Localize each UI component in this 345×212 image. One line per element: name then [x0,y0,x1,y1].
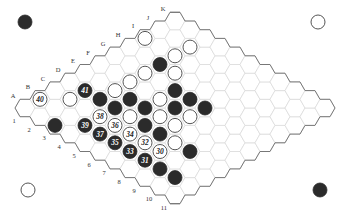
white-stone-F3 [123,75,137,89]
corner-marker-top-left [18,15,32,29]
stone-disc [168,49,182,63]
row-label: 4 [57,143,61,150]
white-stone-C8: 30 [153,145,167,159]
white-stone-H4 [168,66,182,80]
stone-disc [168,136,182,150]
black-stone-B10 [168,171,182,185]
white-stone-J3 [183,40,197,54]
white-stone-C7: 32 [138,136,152,150]
stone-disc [153,58,167,72]
row-label: 11 [161,204,167,211]
black-stone-B7: 33 [123,145,137,159]
white-stone-E6 [153,110,167,124]
stone-disc [138,118,152,132]
white-stone-C4: 38 [93,110,107,124]
column-label: G [101,40,106,47]
white-stone-F5 [153,92,167,106]
row-label: 8 [117,178,120,185]
black-stone-B6: 35 [108,136,122,150]
row-label: 1 [12,117,15,124]
move-number: 38 [95,112,104,121]
column-label: J [147,14,150,21]
column-label: I [132,22,134,29]
stone-disc [63,92,77,106]
column-label: D [56,66,61,73]
move-number: 41 [80,86,89,95]
hex-board: ABCDEFGHIJK1234567891011 413836343230403… [0,0,345,212]
column-label: A [11,92,16,99]
move-number: 35 [110,138,119,147]
column-label: E [71,57,75,64]
white-stone-F7 [183,110,197,124]
black-stone-D4 [108,101,122,115]
black-stone-G5 [168,84,182,98]
white-stone-E3 [108,84,122,98]
stone-disc [183,40,197,54]
column-label: B [26,83,31,90]
white-stone-I3 [168,49,182,63]
move-number: 32 [140,138,149,147]
stone-disc [183,145,197,159]
white-stone-C5: 36 [108,118,122,132]
stone-disc [138,101,152,115]
column-label: F [86,49,90,56]
black-stone-B8: 31 [138,153,152,167]
row-label: 5 [72,152,75,159]
white-stone-D5 [123,110,137,124]
black-stone-G6 [183,92,197,106]
row-label: 9 [132,187,135,194]
white-stone-E7 [168,118,182,132]
stone-disc [183,92,197,106]
white-stone-D8 [168,136,182,150]
stone-disc [168,101,182,115]
stone-disc [108,101,122,115]
white-stone-I1 [138,31,152,45]
black-stone-D3 [93,92,107,106]
move-number: 31 [140,156,149,165]
move-number: 30 [155,147,164,156]
white-stone-B1: 40 [33,92,47,106]
stone-disc [198,101,212,115]
stone-disc [153,92,167,106]
stone-disc [153,127,167,141]
black-stone-D9 [183,145,197,159]
corner-marker-top-right [311,15,325,29]
row-label: 7 [102,169,106,176]
stone-disc [168,66,182,80]
stone-disc [48,118,62,132]
white-stone-C2 [63,92,77,106]
black-stone-H3 [153,58,167,72]
black-stone-D7 [153,127,167,141]
black-stone-D6 [138,118,152,132]
black-stone-B4: 39 [78,118,92,132]
move-number: 40 [35,95,44,104]
stone-disc [138,31,152,45]
stone-disc [123,75,137,89]
stone-disc [123,92,137,106]
black-stone-G7 [198,101,212,115]
stone-disc [168,171,182,185]
black-stone-E4 [123,92,137,106]
white-stone-C6: 34 [123,127,137,141]
stone-disc [108,84,122,98]
move-number: 33 [125,147,134,156]
black-stone-B5: 37 [93,127,107,141]
row-label: 2 [27,126,30,133]
move-number: 37 [95,130,104,139]
stone-disc [123,110,137,124]
black-stone-D2: 41 [78,84,92,98]
row-label: 10 [146,195,153,202]
black-stone-B9 [153,162,167,176]
stone-disc [138,66,152,80]
row-label: 3 [42,134,45,141]
column-label: K [161,5,166,12]
corner-marker-bottom-left [21,183,35,197]
stone-disc [93,92,107,106]
black-stone-A3 [48,118,62,132]
column-label: H [116,31,121,38]
white-stone-G3 [138,66,152,80]
black-stone-E5 [138,101,152,115]
column-label: C [41,75,45,82]
corner-marker-bottom-right [313,183,327,197]
move-number: 34 [125,130,134,139]
